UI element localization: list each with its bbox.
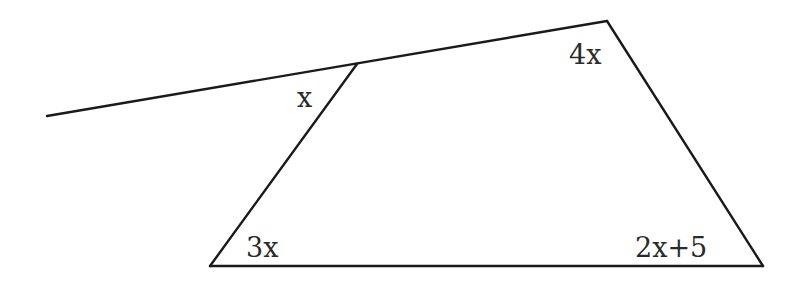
angle-label-x: x [297, 82, 312, 113]
angle-label-2x-plus-5: 2x+5 [635, 232, 707, 263]
right-side [607, 21, 763, 266]
angle-label-3x: 3x [246, 232, 278, 263]
left-side [210, 64, 357, 266]
angle-label-4x: 4x [569, 39, 601, 70]
extended-top-line [47, 21, 607, 116]
quadrilateral-diagram: x 4x 3x 2x+5 [0, 0, 803, 285]
